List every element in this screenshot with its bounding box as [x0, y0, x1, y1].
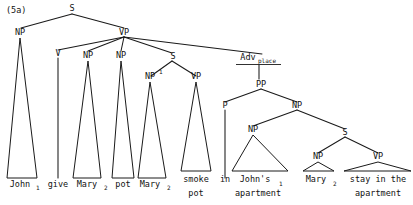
leaf-john-word: John [10, 179, 30, 189]
leaf-give-word: give [48, 179, 68, 189]
node-object-np-1: NP [83, 50, 93, 60]
leaf-johns-index: 1 [279, 180, 283, 187]
leaf-johns-line-2: apartment [235, 188, 281, 198]
node-pp: PP [256, 79, 266, 89]
triangle-smoke-pot [181, 82, 211, 171]
leaf-mary-object-index: 2 [104, 184, 108, 191]
node-inner-s: S [342, 127, 347, 137]
triangle-mary-embedded-subject [138, 82, 166, 178]
node-subject-np: NP [15, 27, 25, 37]
branch-group-embedded-s [151, 61, 196, 76]
node-embedded-s: S [170, 51, 175, 61]
branch-ppnp-to-poss-np [253, 110, 297, 126]
node-adv-subscript-place: place [258, 57, 276, 65]
triangle-mary-inner [303, 162, 334, 171]
leaf-mary-subject-index: 2 [167, 184, 171, 191]
node-embedded-np-1: NP [145, 71, 155, 81]
triangle-john [7, 38, 37, 178]
node-embedded-np-superscripted: NP 1 [145, 68, 163, 81]
triangle-pot [112, 61, 134, 178]
branch-vp-to-embedded-s [124, 37, 172, 53]
branch-group-pp [225, 89, 297, 102]
node-p: P [222, 100, 227, 110]
tree-diagram-canvas: (5a) S NP VP V NP NP S NP 1 VP Adv place… [0, 0, 413, 205]
node-embedded-np-superscript: 1 [159, 68, 163, 75]
leaf-mary-inner: Mary 2 [306, 174, 337, 187]
branch-root-to-main-vp [72, 14, 124, 28]
branch-vp-to-obj-np1 [88, 37, 124, 51]
node-object-np-2: NP [116, 50, 126, 60]
triangle-mary-object [73, 61, 101, 178]
branch-vp-to-obj-np2 [121, 37, 124, 51]
node-adv: Adv [240, 52, 255, 62]
leaf-john-index: 1 [36, 184, 40, 191]
branch-pp-to-p [225, 89, 261, 102]
triangle-johns-apartment [232, 135, 288, 171]
figure-number: (5a) [6, 5, 26, 15]
leaf-stay-line-2: apartment [355, 188, 401, 198]
leaf-mary-object-word: Mary [77, 179, 97, 189]
adv-group [236, 65, 281, 80]
triangle-stay-in-the-apartment [344, 162, 411, 171]
branch-ppnp-to-inner-s [297, 110, 345, 129]
leaf-mary-subject-word: Mary [140, 179, 160, 189]
branch-root-to-subject-np [21, 14, 72, 28]
node-embedded-vp: VP [191, 71, 201, 81]
leaf-mary-object: Mary 2 [77, 179, 108, 191]
leaf-mary-inner-word: Mary [306, 174, 326, 184]
branch-group-root [21, 14, 124, 28]
node-inner-vp: VP [373, 151, 383, 161]
leaf-stay-line-1: stay in the [350, 174, 406, 184]
node-pp-np: NP [292, 100, 302, 110]
branch-vp-to-v [58, 37, 124, 50]
branch-group-pp-np [253, 110, 345, 129]
leaf-johns-line-1: John's [240, 174, 271, 184]
syntax-tree-figure: (5a) S NP VP V NP NP S NP 1 VP Adv place… [0, 0, 413, 205]
leaf-pot-word: pot [115, 179, 130, 189]
node-root-s: S [69, 3, 74, 13]
branch-group-inner-s [318, 137, 378, 153]
leaf-johns-apartment: John's 1 apartment [235, 174, 283, 198]
node-verb-v: V [55, 48, 60, 58]
leaf-smoke-pot: smoke pot [183, 174, 209, 198]
leaf-mary-embedded-subject: Mary 2 [140, 179, 171, 191]
leaf-mary-inner-index: 2 [333, 180, 337, 187]
leaf-in-word: in [220, 174, 230, 184]
node-inner-np: NP [313, 151, 323, 161]
leaf-smoke-pot-line-2: pot [188, 188, 203, 198]
leaf-stay-in-the-apartment: stay in the apartment [350, 174, 406, 198]
leaf-john: John 1 [10, 179, 40, 191]
leaf-smoke-pot-line-1: smoke [183, 174, 209, 184]
node-main-vp: VP [119, 27, 129, 37]
node-possessive-np: NP [248, 124, 258, 134]
